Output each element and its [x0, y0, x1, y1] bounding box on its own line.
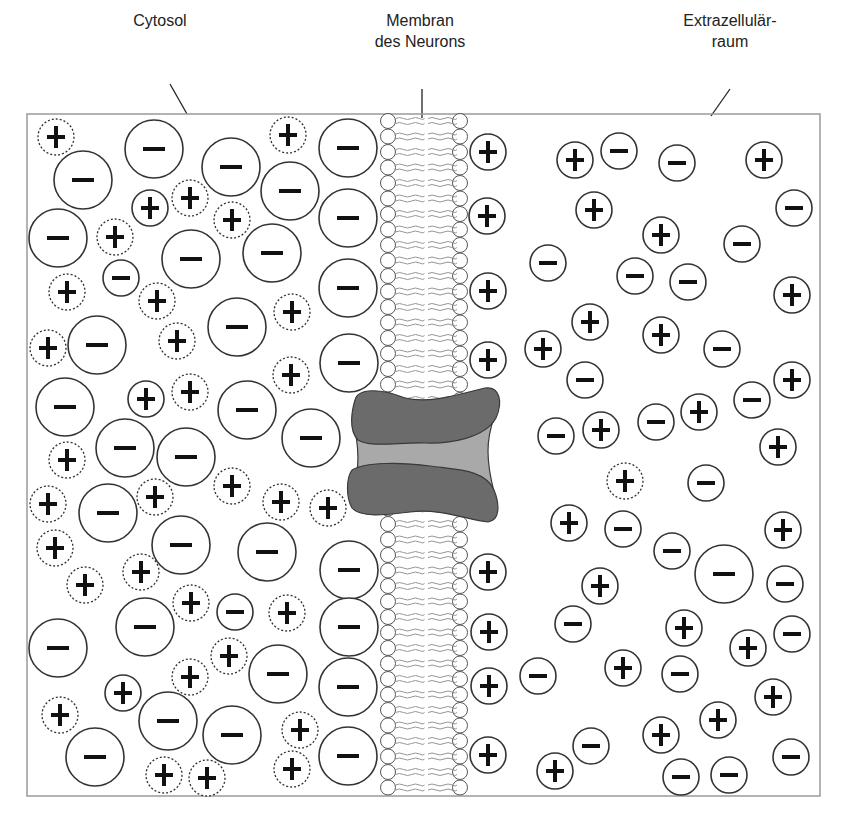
- lipid-tail: [396, 567, 425, 569]
- cation: [557, 142, 593, 178]
- anion: [776, 190, 812, 226]
- anion: [36, 378, 94, 436]
- anion: [249, 645, 307, 703]
- lipid-tail: [396, 262, 425, 264]
- cation: [700, 702, 736, 738]
- lipid-tail: [396, 211, 425, 213]
- hydrated-cation: [37, 530, 73, 566]
- anion: [162, 230, 220, 288]
- anion: [282, 409, 340, 467]
- lipid-tail: [396, 381, 425, 383]
- lipid-tail: [396, 288, 425, 290]
- hydrated-cation: [139, 283, 175, 319]
- anion: [538, 418, 574, 454]
- lipid-tail: [428, 242, 457, 244]
- anion: [66, 728, 124, 786]
- cation: [755, 679, 791, 715]
- lipid-tail: [396, 309, 425, 311]
- extracellular-leader-line: [711, 89, 730, 116]
- phospholipid-head: [381, 579, 396, 594]
- lipid-tail: [396, 552, 425, 554]
- lipid-tail: [428, 257, 457, 259]
- lipid-tail: [396, 572, 425, 574]
- phospholipid-head: [381, 703, 396, 718]
- lipid-tail: [396, 583, 425, 585]
- cation: [746, 142, 782, 178]
- phospholipid-head: [453, 594, 468, 609]
- lipid-tail: [428, 118, 457, 120]
- phospholipid-head: [381, 548, 396, 563]
- phospholipid-head: [453, 517, 468, 532]
- phospholipid-head: [381, 253, 396, 268]
- anion: [29, 619, 87, 677]
- lipid-tail: [396, 536, 425, 538]
- phospholipid-head: [453, 532, 468, 547]
- anion: [605, 511, 641, 547]
- lipid-tail: [428, 583, 457, 585]
- phospholipid-head: [453, 377, 468, 392]
- hydrated-cation: [30, 330, 66, 366]
- hydrated-cation: [270, 117, 306, 153]
- lipid-tail: [396, 216, 425, 218]
- anion: [320, 598, 378, 656]
- anion: [319, 189, 377, 247]
- anion: [773, 739, 809, 775]
- cation: [470, 273, 506, 309]
- phospholipid-head: [453, 331, 468, 346]
- lipid-tail: [396, 226, 425, 228]
- lipid-tail: [428, 676, 457, 678]
- lipid-tail: [396, 738, 425, 740]
- anion: [68, 316, 126, 374]
- hydrated-cation: [123, 554, 159, 590]
- phospholipid-head: [381, 594, 396, 609]
- phospholipid-head: [453, 687, 468, 702]
- hydrated-cation: [172, 659, 208, 695]
- lipid-tail: [396, 273, 425, 275]
- phospholipid-head: [453, 238, 468, 253]
- lipid-tail: [428, 660, 457, 662]
- lipid-tail: [428, 722, 457, 724]
- lipid-tail: [396, 712, 425, 714]
- lipid-tail: [396, 614, 425, 616]
- cation: [681, 394, 717, 430]
- cation: [605, 650, 641, 686]
- hydrated-cation: [607, 463, 643, 499]
- lipid-tail: [428, 784, 457, 786]
- cation: [470, 134, 506, 170]
- lipid-tail: [396, 123, 425, 125]
- anion: [29, 209, 87, 267]
- anion: [567, 362, 603, 398]
- anion: [157, 428, 215, 486]
- lipid-tail: [396, 335, 425, 337]
- cation: [470, 737, 506, 773]
- lipid-tail: [396, 293, 425, 295]
- anion: [734, 382, 770, 418]
- lipid-tail: [396, 366, 425, 368]
- phospholipid-head: [381, 517, 396, 532]
- cation: [525, 331, 561, 367]
- lipid-tail: [428, 567, 457, 569]
- phospholipid-head: [381, 114, 396, 129]
- anion: [573, 728, 609, 764]
- lipid-tail: [396, 629, 425, 631]
- lipid-tail: [396, 350, 425, 352]
- phospholipid-head: [381, 532, 396, 547]
- lipid-tail: [396, 660, 425, 662]
- anion: [659, 145, 695, 181]
- anion: [203, 706, 261, 764]
- lipid-tail: [396, 789, 425, 791]
- lipid-tail: [396, 242, 425, 244]
- anion: [530, 245, 566, 281]
- cation: [470, 342, 506, 378]
- anion: [695, 545, 753, 603]
- lipid-tail: [396, 278, 425, 280]
- cation: [666, 610, 702, 646]
- lipid-tail: [396, 355, 425, 357]
- lipid-tail: [428, 366, 457, 368]
- lipid-tail: [428, 273, 457, 275]
- phospholipid-head: [381, 734, 396, 749]
- phospholipid-head: [453, 160, 468, 175]
- anion: [261, 162, 319, 220]
- lipid-tail: [428, 304, 457, 306]
- phospholipid-head: [381, 765, 396, 780]
